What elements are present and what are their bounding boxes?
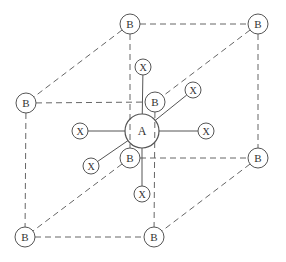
cube-edge [34,30,122,97]
center-atom-a: A [125,114,159,148]
x-atom: X [135,59,151,75]
x-atom-label: X [139,62,147,73]
b-atom-label: B [126,152,133,164]
atom-a-label: A [138,124,147,138]
cube-edge [25,113,26,227]
b-atom-label: B [126,18,133,30]
x-atom-label: X [138,189,146,200]
cube-edge [162,164,250,231]
b-atom-label: B [254,152,261,164]
x-atom-label: X [202,126,210,137]
x-atom: X [72,123,88,139]
b-atom: B [145,92,165,112]
b-atom: B [144,227,164,247]
x-atom: X [185,82,201,98]
bond-line [142,75,143,114]
b-atom: B [248,148,268,168]
b-atom: B [120,14,140,34]
cube-edge [33,164,122,231]
cube-edge [36,102,145,103]
b-atom: B [16,93,36,113]
crystal-structure-diagram: A BBBBBBBB XXXXXX [0,0,286,262]
x-atom-label: X [76,126,84,137]
b-atom-label: B [21,231,28,243]
b-atom: B [120,148,140,168]
b-atom-label: B [22,97,29,109]
x-atom: X [134,186,150,202]
x-atom-label: X [87,161,95,172]
b-atom-label: B [254,18,261,30]
cube-edge [163,30,250,96]
x-atom: X [83,158,99,174]
b-atom-label: B [151,96,158,108]
cube-edge [154,112,155,227]
b-atom: B [15,227,35,247]
b-atom-label: B [150,231,157,243]
b-atom: B [248,14,268,34]
x-atom-label: X [189,85,197,96]
x-atom: X [198,123,214,139]
